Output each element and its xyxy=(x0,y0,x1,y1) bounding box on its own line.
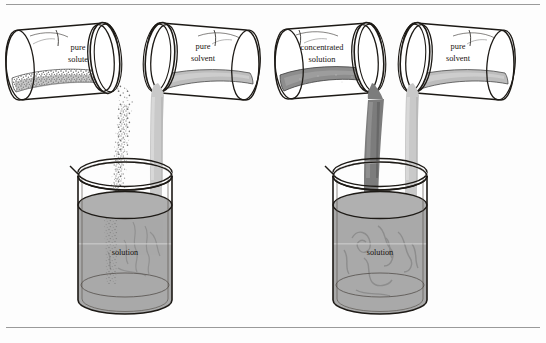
jar-concentrated-label-line1: concentrated xyxy=(301,43,345,52)
jar-pure-solvent-right: pure solvent xyxy=(396,21,518,101)
jar-pure-solute-label-line2: solute xyxy=(68,55,88,64)
solution-preparation-diagram: solution pure solute xyxy=(0,0,546,343)
jar-pure-solvent-right-label-line2: solvent xyxy=(446,54,471,63)
beaker-right-label: solution xyxy=(367,248,393,257)
figure-container: solution pure solute xyxy=(0,0,546,343)
jar-pure-solute-label-line1: pure xyxy=(71,43,86,52)
jar-pure-solute: pure solute xyxy=(3,21,133,101)
jar-concentrated-label-line2: solution xyxy=(309,55,337,64)
jar-concentrated-solution: concentrated solution xyxy=(272,21,388,100)
jar-pure-solvent-left-label-line2: solvent xyxy=(191,54,216,63)
jar-pure-solvent-right-label-line1: pure xyxy=(451,42,466,51)
panel-left: solution pure solute xyxy=(3,21,263,315)
liquid-surface-left xyxy=(78,192,172,219)
jar-pure-solvent-left: pure solvent xyxy=(141,21,263,101)
jar-pure-solvent-left-label-line1: pure xyxy=(196,42,211,51)
beaker-left-label: solution xyxy=(112,248,138,257)
liquid-surface-right xyxy=(333,192,427,219)
panel-right: solution concentrated solution xyxy=(272,21,518,315)
